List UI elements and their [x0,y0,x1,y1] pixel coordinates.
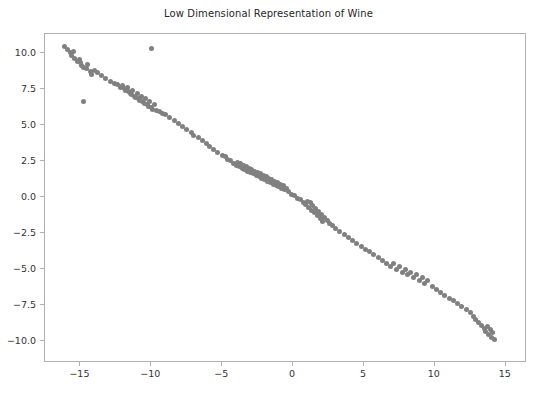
x-tick-mark [363,362,364,366]
scatter-point [152,102,157,107]
plot-axes-frame [44,33,526,362]
y-tick-label: −5.0 [0,263,36,274]
x-tick-mark [221,362,222,366]
y-tick-mark [40,232,44,233]
y-tick-label: 10.0 [0,46,36,57]
scatter-point [492,337,497,342]
scatter-point [391,261,396,266]
scatter-point [149,46,154,51]
x-tick-mark [292,362,293,366]
x-tick-label: −15 [69,368,89,379]
y-tick-label: 5.0 [0,118,36,129]
scatter-point [420,275,425,280]
x-tick-mark [434,362,435,366]
y-tick-label: −7.5 [0,299,36,310]
y-tick-mark [40,340,44,341]
x-tick-label: −10 [140,368,160,379]
y-tick-label: 7.5 [0,82,36,93]
x-tick-mark [150,362,151,366]
y-tick-label: −2.5 [0,227,36,238]
y-tick-mark [40,88,44,89]
y-tick-mark [40,52,44,53]
scatter-point [425,278,430,283]
scatter-point [85,62,90,67]
y-tick-label: 2.5 [0,154,36,165]
x-tick-label: −5 [214,368,228,379]
x-tick-label: 10 [428,368,440,379]
scatter-plot-figure: Low Dimensional Representation of Wine −… [0,0,537,395]
scatter-point [490,330,495,335]
x-tick-mark [505,362,506,366]
y-tick-mark [40,160,44,161]
y-tick-label: −10.0 [0,335,36,346]
y-tick-mark [40,268,44,269]
x-tick-label: 5 [360,368,366,379]
scatter-point [71,49,76,54]
y-tick-mark [40,304,44,305]
scatter-point [408,270,413,275]
x-tick-label: 0 [289,368,295,379]
page-title: Low Dimensional Representation of Wine [0,8,537,19]
y-tick-mark [40,196,44,197]
scatter-point [81,99,86,104]
scatter-point [414,272,419,277]
scatter-point [89,72,94,77]
x-tick-mark [79,362,80,366]
x-tick-label: 15 [499,368,511,379]
scatter-point [397,264,402,269]
scatter-point [403,267,408,272]
y-tick-label: 0.0 [0,191,36,202]
scatter-points-layer [45,34,525,361]
y-tick-mark [40,124,44,125]
